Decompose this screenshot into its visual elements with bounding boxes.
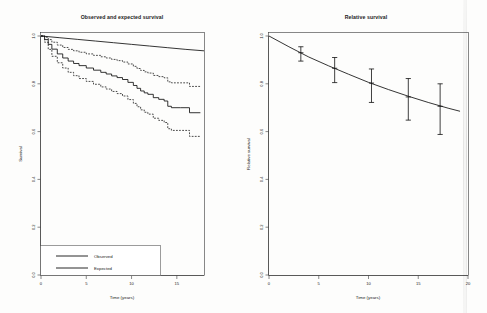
right-y-axis: 0.00.20.40.60.81.0 xyxy=(259,32,269,277)
x-tick-label: 0 xyxy=(268,281,271,286)
y-tick-label: 0.6 xyxy=(259,128,264,134)
y-tick-label: 0.4 xyxy=(259,176,264,182)
series-path xyxy=(41,36,204,51)
x-tick-label: 15 xyxy=(175,281,180,286)
series-path xyxy=(269,36,460,111)
right-x-axis-label: Time (years) xyxy=(356,295,381,300)
legend-label-expected: Expected xyxy=(94,266,113,271)
right-series-group xyxy=(269,36,460,111)
left-series-group xyxy=(41,36,204,136)
error-bar xyxy=(438,84,443,135)
x-tick-label: 5 xyxy=(85,281,88,286)
figure-canvas: Observed and expected survival 0.00.20.4… xyxy=(0,0,487,313)
right-error-bars xyxy=(298,47,443,135)
y-tick-label: 0.8 xyxy=(31,80,36,86)
y-tick-label: 1.0 xyxy=(31,32,36,38)
two-panel-survival-figure: Observed and expected survival 0.00.20.4… xyxy=(0,0,487,313)
left-legend: Observed Expected xyxy=(41,246,161,276)
left-x-axis-label: Time (years) xyxy=(110,295,135,300)
left-panel-title: Observed and expected survival xyxy=(81,14,164,20)
error-bar xyxy=(332,58,337,83)
y-tick-label: 0.0 xyxy=(259,271,264,277)
y-tick-label: 0.8 xyxy=(259,80,264,86)
error-bar xyxy=(369,69,374,102)
left-x-axis: 051015 xyxy=(40,276,204,287)
error-bar xyxy=(406,79,411,121)
right-panel-title: Relative survival xyxy=(345,14,388,20)
y-tick-label: 0.6 xyxy=(31,128,36,134)
right-panel: Relative survival 0.00.20.40.60.81.0 051… xyxy=(246,14,471,300)
right-plot-frame xyxy=(269,33,469,276)
left-y-axis: 0.00.20.40.60.81.0 xyxy=(31,32,41,277)
left-plot-frame xyxy=(41,33,205,276)
y-tick-label: 0.4 xyxy=(31,176,36,182)
legend-label-observed: Observed xyxy=(94,254,113,259)
series-path xyxy=(41,36,200,136)
x-tick-label: 10 xyxy=(129,281,134,286)
legend-box xyxy=(41,246,161,276)
y-tick-label: 1.0 xyxy=(259,32,264,38)
x-tick-label: 0 xyxy=(40,281,43,286)
x-tick-label: 10 xyxy=(366,281,371,286)
y-tick-label: 0.2 xyxy=(259,224,264,230)
right-x-axis: 05101520 xyxy=(268,276,471,287)
x-tick-label: 5 xyxy=(318,281,321,286)
left-panel: Observed and expected survival 0.00.20.4… xyxy=(18,14,205,300)
scan-edge-line-right xyxy=(466,0,467,313)
x-tick-label: 15 xyxy=(416,281,421,286)
right-y-axis-label: Relative survival xyxy=(246,138,251,170)
left-y-axis-label: Survival xyxy=(18,146,23,162)
y-tick-label: 0.0 xyxy=(31,271,36,277)
y-tick-label: 0.2 xyxy=(31,224,36,230)
